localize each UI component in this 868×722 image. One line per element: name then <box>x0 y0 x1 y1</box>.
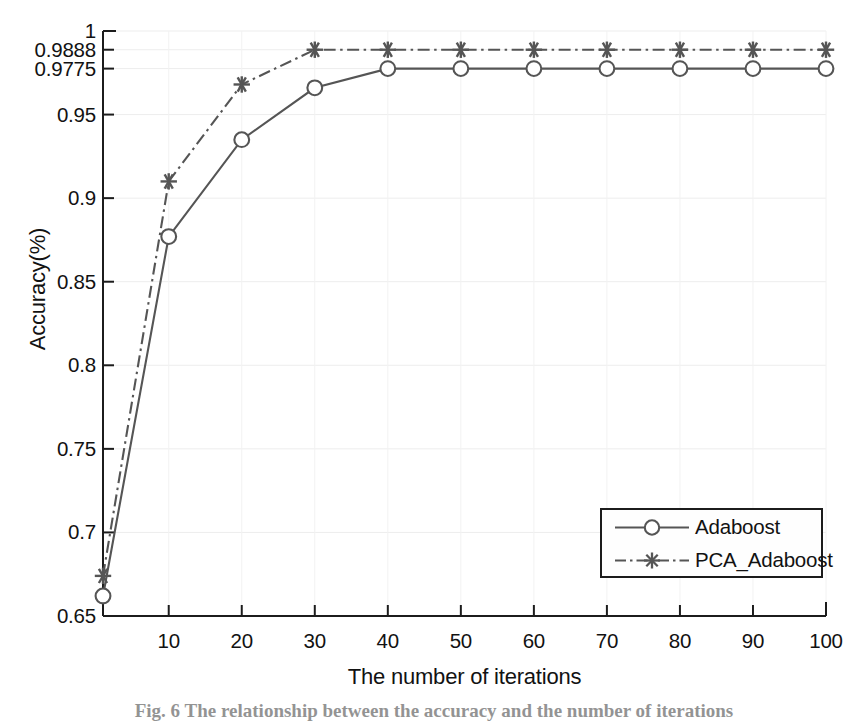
data-point-marker-circle <box>746 61 761 76</box>
x-axis-title: The number of iterations <box>103 664 826 690</box>
y-axis-tick-label: 0.8 <box>68 355 96 376</box>
data-point-marker-circle <box>161 229 176 244</box>
legend-item-pca-adaboost[interactable]: PCA_Adaboost <box>602 543 821 578</box>
data-point-marker-asterisk <box>672 42 688 58</box>
data-point-marker-asterisk <box>599 42 615 58</box>
data-point-marker-asterisk <box>307 42 323 58</box>
data-point-marker-circle <box>307 80 322 95</box>
y-axis-tick-label: 0.9888 <box>34 40 96 61</box>
data-point-marker-asterisk <box>234 76 250 92</box>
y-axis-tick-label: 0.65 <box>57 606 96 627</box>
data-point-marker-asterisk <box>526 42 542 58</box>
caption-label: Fig. 6 <box>135 700 180 721</box>
legend-sample-dashdot-asterisk <box>613 543 691 578</box>
data-point-marker-asterisk <box>161 173 177 189</box>
x-axis-tick-label: 40 <box>348 631 428 652</box>
x-axis-tick-label: 80 <box>640 631 720 652</box>
data-point-marker-circle <box>453 61 468 76</box>
legend-label: PCA_Adaboost <box>695 550 833 571</box>
x-axis-tick-label: 90 <box>713 631 793 652</box>
y-axis-tick-label: 0.9 <box>68 188 96 209</box>
x-axis-tick-label: 20 <box>202 631 282 652</box>
y-axis-tick-label: 0.95 <box>57 105 96 126</box>
legend-sample-solid-circle <box>613 510 691 545</box>
data-point-marker-circle <box>819 61 834 76</box>
data-point-marker-circle <box>234 132 249 147</box>
legend-item-adaboost[interactable]: Adaboost <box>602 510 821 545</box>
x-axis-tick-label: 50 <box>421 631 501 652</box>
y-axis-tick-label: 0.7 <box>68 522 96 543</box>
data-point-marker-circle <box>380 61 395 76</box>
data-point-marker-asterisk <box>818 42 834 58</box>
data-point-marker-asterisk <box>453 42 469 58</box>
x-axis-tick-label: 30 <box>275 631 355 652</box>
x-axis-tick-label: 70 <box>567 631 647 652</box>
y-axis-title: Accuracy(%) <box>25 189 51 389</box>
caption-text: The relationship between the accuracy an… <box>185 700 734 721</box>
data-point-marker-circle <box>526 61 541 76</box>
y-axis-tick-label: 1 <box>85 21 96 42</box>
data-point-marker-circle <box>673 61 688 76</box>
chart-legend: Adaboost PCA_Adaboost <box>600 508 823 578</box>
data-point-marker-circle <box>600 61 615 76</box>
x-axis-tick-label: 60 <box>494 631 574 652</box>
figure-caption: Fig. 6 The relationship between the accu… <box>0 700 868 722</box>
legend-label: Adaboost <box>695 517 780 538</box>
series-line-pca-adaboost <box>103 50 826 576</box>
x-axis-tick-label: 10 <box>129 631 209 652</box>
data-point-marker-asterisk <box>380 42 396 58</box>
x-axis-tick-label: 100 <box>786 631 866 652</box>
data-point-marker-asterisk <box>745 42 761 58</box>
y-axis-tick-label: 0.85 <box>57 272 96 293</box>
y-axis-tick-label: 0.9775 <box>34 59 96 80</box>
data-point-marker-circle <box>96 589 111 604</box>
y-axis-tick-label: 0.75 <box>57 439 96 460</box>
